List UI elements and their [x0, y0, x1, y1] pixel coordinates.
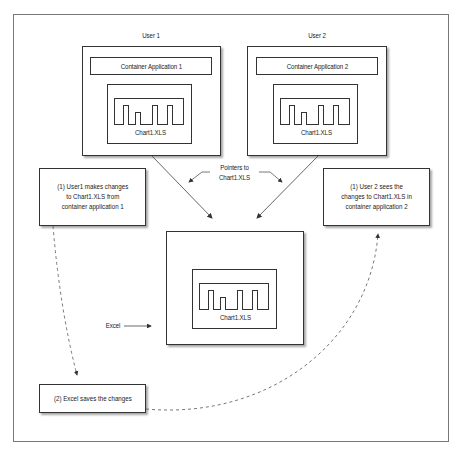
chart-bar	[167, 105, 173, 125]
chart-icon-excel	[199, 283, 269, 310]
chart-bar	[289, 105, 295, 125]
chart-file-box-2: Chart1.XLS	[273, 84, 358, 144]
chart-file-box-excel: Chart1.XLS	[192, 269, 277, 329]
chart-bar	[220, 297, 226, 310]
pointers-label-line2: Chart1.XLS	[216, 173, 253, 182]
chart-bar	[237, 290, 243, 310]
container-app-2-bar: Container Application 2	[256, 57, 378, 75]
user-1-container-box: Container Application 1 Chart1.XLS	[82, 46, 221, 156]
chart-file-label-2: Chart1.XLS	[282, 128, 352, 137]
note-user2-sees-text: (1) User 2 sees the changes to Chart1.XL…	[341, 182, 412, 212]
chart-bar	[152, 105, 158, 125]
chart-bar	[135, 112, 141, 125]
chart-file-label-excel: Chart1.XLS	[201, 313, 271, 322]
container-app-2-label: Container Application 2	[286, 62, 347, 71]
excel-label: Excel	[101, 321, 126, 330]
chart-icon-1	[114, 98, 184, 125]
user-1-label: User 1	[135, 31, 168, 40]
container-app-1-bar: Container Application 1	[90, 57, 212, 75]
user-2-label: User 2	[301, 31, 334, 40]
note-user2-sees: (1) User 2 sees the changes to Chart1.XL…	[323, 168, 430, 226]
user-2-container-box: Container Application 2 Chart1.XLS	[247, 46, 387, 156]
chart-icon-2	[280, 98, 350, 125]
chart-bar	[123, 105, 129, 125]
chart-bar	[333, 105, 339, 125]
chart-bar	[252, 290, 258, 310]
chart-bar	[208, 290, 214, 310]
container-app-1-label: Container Application 1	[120, 62, 181, 71]
chart-file-box-1: Chart1.XLS	[107, 84, 192, 144]
note-excel-saves: (2) Excel saves the changes	[39, 384, 146, 413]
note-user1-changes-text: (1) User1 makes changes to Chart1.XLS fr…	[57, 182, 128, 212]
chart-file-label-1: Chart1.XLS	[116, 128, 186, 137]
pointers-label-line1: Pointers to	[216, 163, 253, 172]
note-user1-changes: (1) User1 makes changes to Chart1.XLS fr…	[39, 168, 146, 226]
excel-box: Chart1.XLS	[166, 231, 304, 345]
chart-bar	[318, 105, 324, 125]
note-excel-saves-text: (2) Excel saves the changes	[54, 394, 132, 404]
chart-bar	[301, 112, 307, 125]
